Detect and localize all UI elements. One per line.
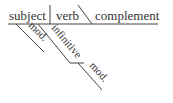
mod-label-1: mod. <box>27 19 51 43</box>
sentence-diagram: subject verb complement mod. infinitive … <box>0 0 173 103</box>
subject-label: subject <box>9 8 46 23</box>
infinitive-label: infinitive <box>49 22 84 61</box>
verb-complement-slash <box>78 5 92 24</box>
mod-label-2: mod. <box>88 59 112 84</box>
complement-label: complement <box>95 8 160 23</box>
verb-label: verb <box>56 8 79 23</box>
